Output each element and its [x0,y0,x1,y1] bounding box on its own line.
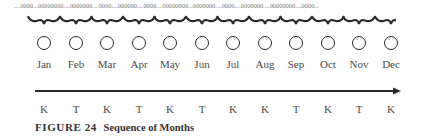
month-label: Jan [29,58,59,70]
arrowhead-icon [393,88,401,95]
brace-icon [249,17,281,24]
brace-icon [186,17,218,24]
month-label: Jul [218,58,248,70]
sequence-letter: T [187,103,217,115]
circle-icon [163,36,177,50]
brace-icon [91,17,123,24]
brace-icon [154,17,186,24]
circle-icon [289,36,303,50]
month-label: Nov [344,58,374,70]
month-label: Jun [187,58,217,70]
brace-icon [343,17,375,24]
sequence-letter: K [250,103,280,115]
brace-icon [280,17,312,24]
sequence-letter: K [376,103,406,115]
top-dot-sequence: ....0000...00000000....0000000....0000..… [14,2,414,9]
circle-icon [195,36,209,50]
sequence-letter: K [218,103,248,115]
circle-icon [37,36,51,50]
circle-icon [226,36,240,50]
month-label: May [155,58,185,70]
sequence-letter: T [61,103,91,115]
brace-icon [375,17,396,24]
brace-icon [123,17,155,24]
month-label: Dec [376,58,406,70]
figure-title: Sequence of Months [104,122,194,133]
month-label: Mar [92,58,122,70]
figure-label: FIGURE 24 [35,121,97,133]
circle-icon [132,36,146,50]
brace-icon [312,17,344,24]
circle-icon [384,36,398,50]
sequence-letter: T [281,103,311,115]
month-label: Apr [124,58,154,70]
brace-icon [217,17,249,24]
brace-row [26,14,396,30]
sequence-letter: K [313,103,343,115]
circle-icon [258,36,272,50]
month-label: Sep [281,58,311,70]
timeline-arrow [35,87,401,95]
circle-icon [100,36,114,50]
month-label: Aug [250,58,280,70]
sequence-letter: T [344,103,374,115]
brace-icon [60,17,92,24]
month-label: Oct [313,58,343,70]
sequence-letter: K [29,103,59,115]
circle-icon [69,36,83,50]
sequence-letter: T [124,103,154,115]
sequence-letter: K [92,103,122,115]
figure-caption: FIGURE 24 Sequence of Months [35,121,194,133]
brace-icon [28,17,60,24]
month-label: Feb [61,58,91,70]
sequence-letter: K [155,103,185,115]
circle-icon [321,36,335,50]
circle-icon [352,36,366,50]
